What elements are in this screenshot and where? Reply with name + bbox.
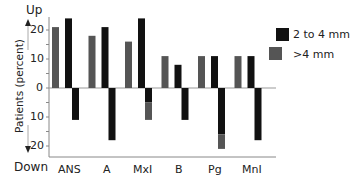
bar-2to4-down-B xyxy=(182,88,189,120)
x-label-a: A xyxy=(103,163,111,176)
y-tick-0: 0 xyxy=(36,81,43,94)
bar-gt4-up-Pg xyxy=(198,56,205,88)
x-label-b: B xyxy=(175,163,183,176)
bar-gt4-up-MnI xyxy=(235,56,242,88)
y-tick-20-up: 20 xyxy=(30,23,44,36)
bar-gt4-up-B xyxy=(162,56,169,88)
bar-2to4-down-Pg xyxy=(218,88,225,134)
bar-2to4-up-B xyxy=(175,65,182,88)
bar-2to4-down-A xyxy=(109,88,116,140)
x-label-mni: MnI xyxy=(242,163,262,176)
bar-gt4-up-A xyxy=(89,36,96,88)
x-label-pg: Pg xyxy=(208,163,222,176)
y-tick-10-up: 10 xyxy=(30,52,44,65)
x-label-mxi: MxI xyxy=(133,163,152,176)
bar-gt4-down-MxI xyxy=(145,103,152,120)
y-axis-title: Patients (percent) xyxy=(13,31,25,141)
down-label: Down xyxy=(14,160,48,174)
bar-gt4-up-ANS xyxy=(52,27,59,88)
bar-2to4-up-Pg xyxy=(211,56,218,88)
up-label: Up xyxy=(26,3,42,17)
legend-swatch-2to4 xyxy=(276,28,289,41)
bar-2to4-down-MxI xyxy=(145,88,152,103)
bar-gt4-up-MxI xyxy=(125,42,132,88)
bar-2to4-up-ANS xyxy=(65,18,72,88)
y-tick-10-down: 10 xyxy=(30,110,44,123)
bar-2to4-up-MnI xyxy=(248,56,255,88)
bar-2to4-down-ANS xyxy=(72,88,79,120)
x-label-ans: ANS xyxy=(58,163,81,176)
legend-label-2to4: 2 to 4 mm xyxy=(293,28,350,41)
chart: Up Down Patients (percent) 20 10 0 10 20… xyxy=(0,0,355,186)
legend-swatch-gt4 xyxy=(269,47,282,60)
y-tick-20-down: 20 xyxy=(30,139,44,152)
bar-2to4-up-A xyxy=(102,27,109,88)
legend-label-gt4: >4 mm xyxy=(293,48,334,61)
bar-2to4-up-MxI xyxy=(138,18,145,88)
bar-2to4-down-MnI xyxy=(255,88,262,140)
bar-gt4-down-Pg xyxy=(218,134,225,149)
